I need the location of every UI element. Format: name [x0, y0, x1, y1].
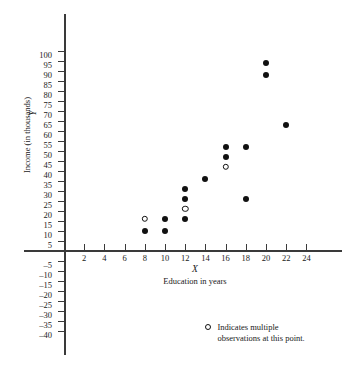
x-axis-title: Education in years: [163, 276, 226, 286]
data-point-multiple: [182, 206, 188, 212]
y-tick: [58, 181, 64, 182]
legend-open-circle-icon: [205, 324, 211, 330]
data-point: [263, 60, 269, 66]
data-point: [283, 122, 289, 128]
y-tick: [58, 281, 64, 282]
x-tick: [286, 244, 287, 250]
data-point: [263, 72, 269, 78]
x-tick: [125, 244, 126, 250]
data-point: [182, 186, 188, 192]
y-tick: [58, 151, 64, 152]
y-tick: [58, 271, 64, 272]
x-tick-label: 24: [302, 254, 311, 263]
y-tick: [58, 161, 64, 162]
y-tick: [58, 171, 64, 172]
x-tick-label: 22: [282, 254, 291, 263]
x-tick: [246, 244, 247, 250]
y-tick: [58, 141, 64, 142]
y-tick: [58, 311, 64, 312]
y-tick: [58, 321, 64, 322]
data-point: [243, 196, 249, 202]
data-point-multiple: [142, 216, 148, 222]
scatter-plot: 1009590858075706560555045403530252015105…: [0, 0, 354, 368]
y-tick: [58, 241, 64, 242]
data-point: [223, 144, 229, 150]
y-tick: [58, 61, 64, 62]
y-tick: [58, 201, 64, 202]
y-tick: [58, 111, 64, 112]
data-point: [202, 176, 208, 182]
x-tick-label: 10: [161, 254, 170, 263]
x-axis-variable-label: X: [192, 264, 198, 274]
x-tick-label: 12: [181, 254, 190, 263]
data-point: [162, 228, 168, 234]
data-point: [142, 228, 148, 234]
x-tick: [306, 244, 307, 250]
y-axis-title: Income (in thousands): [22, 75, 32, 195]
y-tick: [58, 231, 64, 232]
y-tick: [58, 51, 64, 52]
x-tick: [266, 244, 267, 250]
y-tick: [58, 191, 64, 192]
x-tick-label: 18: [242, 254, 251, 263]
y-tick: [58, 261, 64, 262]
x-tick: [226, 244, 227, 250]
y-tick: [58, 81, 64, 82]
x-tick-label: 20: [262, 254, 271, 263]
legend-text: Indicates multiple observations at this …: [217, 322, 304, 344]
x-tick-label: 16: [221, 254, 230, 263]
x-tick: [104, 244, 105, 250]
y-axis-line: [64, 14, 66, 355]
data-point-multiple: [222, 164, 228, 170]
x-tick: [84, 244, 85, 250]
x-tick-label: 2: [82, 254, 86, 263]
x-tick: [205, 244, 206, 250]
y-tick: [58, 221, 64, 222]
y-tick: [58, 131, 64, 132]
legend-line-2: observations at this point.: [217, 333, 304, 344]
y-tick: [58, 91, 64, 92]
x-axis-line: [24, 250, 342, 252]
data-point: [182, 196, 188, 202]
y-tick: [58, 291, 64, 292]
data-point: [223, 154, 229, 160]
x-tick-label: 14: [201, 254, 210, 263]
legend: Indicates multiple observations at this …: [205, 322, 354, 344]
data-point: [162, 216, 168, 222]
y-tick: [58, 71, 64, 72]
legend-line-1: Indicates multiple: [217, 322, 304, 333]
x-tick: [165, 244, 166, 250]
x-tick: [145, 244, 146, 250]
y-tick: [58, 121, 64, 122]
x-tick-label: 4: [102, 254, 106, 263]
x-tick-label: 6: [122, 254, 126, 263]
y-tick: [58, 211, 64, 212]
x-tick: [185, 244, 186, 250]
y-tick: [58, 331, 64, 332]
x-tick-label: 8: [143, 254, 147, 263]
y-tick: [58, 101, 64, 102]
y-tick: [58, 301, 64, 302]
data-point: [243, 144, 249, 150]
data-point: [182, 216, 188, 222]
